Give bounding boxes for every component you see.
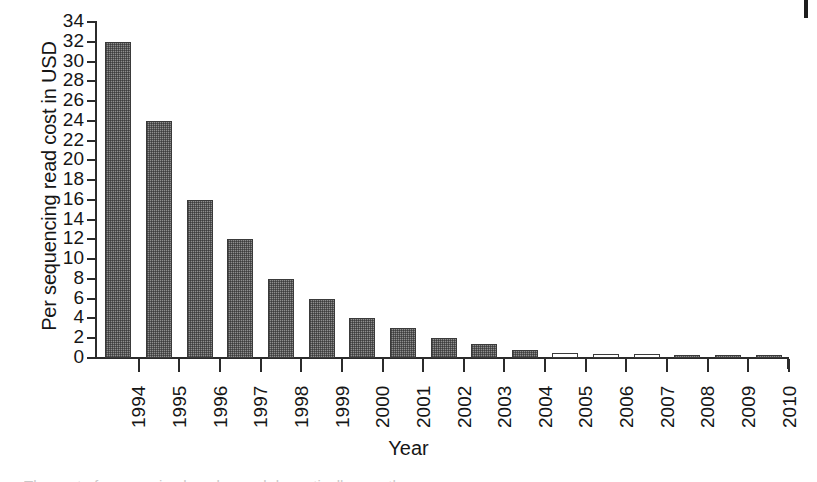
bar-1998 (268, 279, 294, 358)
y-tick-label-28: 28 (36, 70, 84, 89)
bar-1999 (309, 299, 335, 358)
y-tick-label-0: 0 (36, 347, 84, 366)
y-tick-label-20: 20 (36, 149, 84, 168)
bar-1995 (146, 121, 172, 358)
y-tick-22 (87, 140, 96, 142)
x-tick-label-1999: 1999 (332, 354, 354, 428)
x-tick-label-1995: 1995 (169, 354, 191, 428)
caption-sliver: The cost of sequencing has dropped drama… (24, 478, 724, 482)
x-tick-label-2001: 2001 (413, 354, 435, 428)
x-tick-label-2008: 2008 (697, 354, 719, 428)
y-tick-10 (87, 258, 96, 260)
y-tick-16 (87, 199, 96, 201)
bar-1997 (227, 239, 253, 358)
y-tick-0 (87, 357, 96, 359)
y-tick-8 (87, 278, 96, 280)
x-tick-label-1996: 1996 (210, 354, 232, 428)
y-tick-28 (87, 80, 96, 82)
y-tick-26 (87, 100, 96, 102)
y-tick-label-12: 12 (36, 228, 84, 247)
y-tick-30 (87, 61, 96, 63)
y-tick-12 (87, 238, 96, 240)
y-tick-label-34: 34 (36, 11, 84, 30)
bar-2000 (349, 318, 375, 358)
x-tick-label-1997: 1997 (250, 354, 272, 428)
y-tick-4 (87, 317, 96, 319)
bar-1996 (187, 200, 213, 358)
x-tick-label-2003: 2003 (494, 354, 516, 428)
x-tick-label-2009: 2009 (738, 354, 760, 428)
x-axis-title: Year (0, 437, 817, 460)
x-tick-label-1994: 1994 (128, 354, 150, 428)
y-axis-tick-labels: 0246810121416182022242628303234 (32, 0, 84, 482)
y-tick-14 (87, 219, 96, 221)
y-tick-label-26: 26 (36, 90, 84, 109)
y-tick-label-32: 32 (36, 31, 84, 50)
y-tick-label-16: 16 (36, 189, 84, 208)
x-tick-label-2006: 2006 (616, 354, 638, 428)
x-tick-label-1998: 1998 (291, 354, 313, 428)
y-tick-label-2: 2 (36, 327, 84, 346)
y-tick-label-4: 4 (36, 307, 84, 326)
plot-area (97, 22, 788, 358)
y-tick-label-14: 14 (36, 209, 84, 228)
y-tick-label-24: 24 (36, 110, 84, 129)
y-tick-2 (87, 337, 96, 339)
y-tick-label-22: 22 (36, 130, 84, 149)
y-tick-32 (87, 41, 96, 43)
x-tick-label-2010: 2010 (779, 354, 801, 428)
y-tick-label-10: 10 (36, 248, 84, 267)
y-tick-label-18: 18 (36, 169, 84, 188)
page-edge-marker (804, 0, 808, 18)
y-tick-6 (87, 298, 96, 300)
y-tick-18 (87, 179, 96, 181)
y-tick-label-6: 6 (36, 288, 84, 307)
figure-bar-chart: Per sequencing read cost in USD 02468101… (0, 0, 817, 482)
x-tick-label-2004: 2004 (535, 354, 557, 428)
x-tick-label-2005: 2005 (575, 354, 597, 428)
y-tick-20 (87, 159, 96, 161)
x-tick-label-2002: 2002 (454, 354, 476, 428)
x-tick-label-2007: 2007 (657, 354, 679, 428)
y-tick-24 (87, 120, 96, 122)
x-tick-label-2000: 2000 (372, 354, 394, 428)
bar-1994 (105, 42, 131, 358)
y-tick-label-8: 8 (36, 268, 84, 287)
y-tick-34 (87, 21, 96, 23)
y-tick-label-30: 30 (36, 51, 84, 70)
